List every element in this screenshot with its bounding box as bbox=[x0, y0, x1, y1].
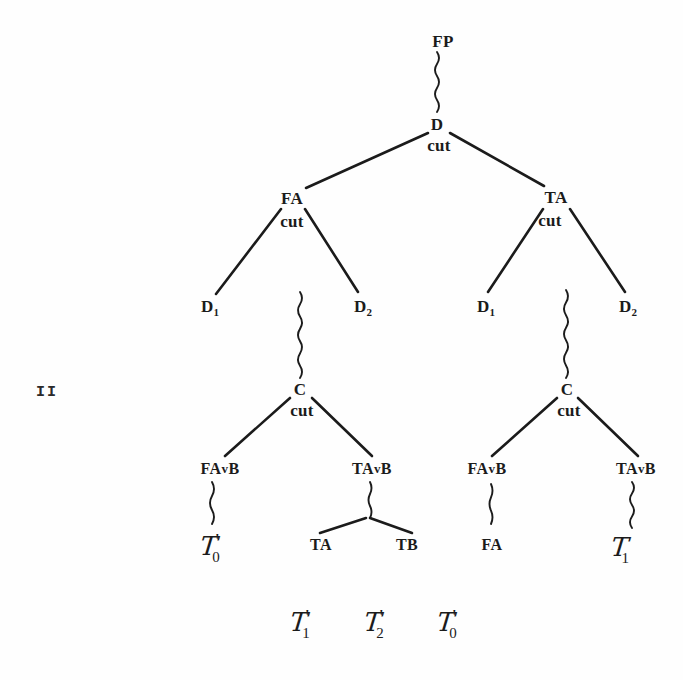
node-base: D bbox=[619, 297, 632, 316]
node-subscript: 1 bbox=[214, 306, 220, 318]
edge-tavb-to-ta bbox=[320, 518, 366, 533]
edge-c-to-favb-1 bbox=[225, 398, 290, 456]
edge-d-to-fa bbox=[306, 133, 428, 188]
node-base: TA bbox=[352, 460, 374, 477]
node-subscript: 1 bbox=[490, 306, 496, 318]
node-fa-left: FA bbox=[281, 190, 303, 207]
node-d2-left: D2 bbox=[354, 298, 372, 318]
edge-ta-to-d2 bbox=[570, 209, 625, 292]
node-rest: B bbox=[495, 460, 506, 477]
tau-1-prime-bottom: T'1 bbox=[290, 606, 309, 642]
node-subscript: 2 bbox=[367, 306, 373, 318]
edge-c-to-favb-2 bbox=[492, 398, 557, 456]
node-rest: B bbox=[645, 460, 656, 477]
disjunction-symbol: v bbox=[221, 461, 228, 476]
node-d1-left: D1 bbox=[201, 298, 219, 318]
disjunction-symbol: v bbox=[638, 461, 645, 476]
node-ta-leaf: TA bbox=[310, 537, 332, 553]
script-tau-glyph: T bbox=[610, 532, 630, 562]
cut-label-c-right: cut bbox=[557, 401, 581, 421]
squiggle-d2-left-to-c bbox=[298, 292, 302, 378]
node-fa-leaf: FA bbox=[482, 537, 503, 553]
cut-label-ta-right: cut bbox=[538, 211, 562, 231]
disjunction-symbol: v bbox=[374, 461, 381, 476]
section-label-ii: II bbox=[36, 384, 58, 401]
squiggle-fp-to-d bbox=[435, 52, 439, 112]
squiggle-favb2-to-fa bbox=[490, 484, 493, 524]
tau-2-prime-bottom: T'2 bbox=[364, 606, 383, 642]
edge-fa-to-d2 bbox=[305, 209, 358, 292]
node-c-left: C bbox=[294, 381, 307, 398]
node-tb-leaf: TB bbox=[396, 537, 418, 553]
edge-ta-to-d1 bbox=[488, 209, 543, 292]
squiggle-edges bbox=[210, 52, 634, 528]
node-favb-left: FAvB bbox=[201, 461, 240, 477]
node-rest: B bbox=[381, 460, 392, 477]
node-base: D bbox=[477, 297, 490, 316]
squiggle-tavb1-to-fork bbox=[369, 482, 372, 518]
tau-1-right: T1 bbox=[611, 532, 629, 567]
node-c-right: C bbox=[561, 381, 574, 398]
node-base: D bbox=[201, 297, 214, 316]
node-fp: FP bbox=[432, 33, 454, 50]
figure-canvas: II FP D cut FA cut TA cut D1 D2 D1 D2 C … bbox=[0, 0, 683, 680]
straight-edges bbox=[216, 133, 638, 533]
node-d-root: D bbox=[431, 116, 444, 133]
script-tau-glyph: T bbox=[289, 607, 309, 637]
disjunction-symbol: v bbox=[488, 461, 495, 476]
cut-label-c-left: cut bbox=[290, 401, 314, 421]
node-d1-right: D1 bbox=[477, 298, 495, 318]
node-subscript: 2 bbox=[632, 306, 638, 318]
tau-0-prime-left: T'0 bbox=[200, 530, 219, 566]
edge-tavb-to-tb bbox=[370, 518, 412, 533]
edge-c-to-tavb-1 bbox=[312, 398, 372, 456]
tau-0-prime-bottom: T'0 bbox=[437, 606, 456, 642]
tree-edges-layer bbox=[0, 0, 683, 680]
edge-d-to-ta bbox=[450, 133, 544, 186]
node-tavb-right: TAvB bbox=[616, 461, 656, 477]
node-base: TA bbox=[616, 460, 638, 477]
script-tau-glyph: T bbox=[436, 607, 456, 637]
edge-c-to-tavb-2 bbox=[578, 398, 638, 456]
node-tavb-left: TAvB bbox=[352, 461, 392, 477]
edge-fa-to-d1 bbox=[216, 209, 281, 294]
cut-label-d-root: cut bbox=[427, 136, 451, 156]
cut-label-fa-left: cut bbox=[280, 212, 304, 232]
node-base: D bbox=[354, 297, 367, 316]
node-rest: B bbox=[228, 460, 239, 477]
squiggle-d-right-to-c bbox=[564, 290, 568, 378]
node-base: FA bbox=[201, 460, 222, 477]
squiggle-tavb2-to-tau bbox=[630, 482, 634, 528]
node-base: FA bbox=[468, 460, 489, 477]
script-tau-glyph: T bbox=[199, 531, 219, 561]
node-d2-right: D2 bbox=[619, 298, 637, 318]
squiggle-favb1-to-tau bbox=[210, 482, 214, 524]
script-tau-glyph: T bbox=[363, 607, 383, 637]
node-ta-right: TA bbox=[544, 189, 567, 206]
node-favb-right: FAvB bbox=[468, 461, 507, 477]
